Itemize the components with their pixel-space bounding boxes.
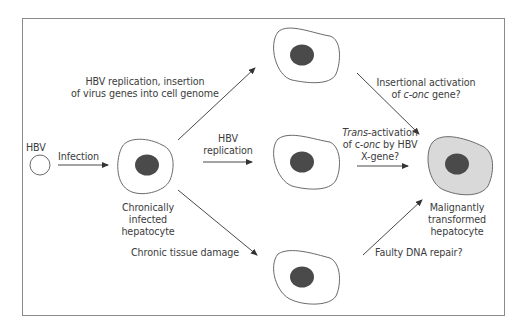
to-top-label: HBV replication, insertion of virus gene… <box>70 76 220 100</box>
malignant-hepatocyte-label: Malignantly transformed hepatocyte <box>420 202 494 238</box>
bottom-hepatocyte-icon <box>274 251 340 305</box>
malignant-hepatocyte-icon <box>428 137 493 195</box>
diagram-canvas <box>0 0 527 331</box>
top-hepatocyte-icon <box>274 28 340 83</box>
to-middle-label: HBV replication <box>200 133 256 157</box>
to-bottom-label: Chronic tissue damage <box>131 247 239 259</box>
infection-label: Infection <box>58 151 99 163</box>
middle-to-malignant-label: Trans-activation of c-onc by HBV X-gene? <box>338 127 422 163</box>
chronic-hepatocyte-label: Chronically infected hepatocyte <box>114 202 182 238</box>
to-bottom-arrow <box>178 190 257 255</box>
chronic-hepatocyte-icon <box>118 139 173 193</box>
middle-hepatocyte-icon <box>274 135 340 189</box>
top-to-malignant-label: Insertional activation of c-onc gene? <box>372 77 480 101</box>
hbv-virus-icon <box>30 155 50 175</box>
hbv-label: HBV <box>26 142 46 154</box>
bottom-to-malignant-label: Faulty DNA repair? <box>375 247 462 259</box>
